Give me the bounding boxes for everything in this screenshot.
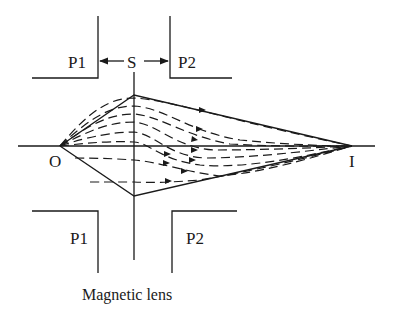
label-image: I	[349, 152, 355, 171]
label-pole-top-right: P2	[178, 53, 196, 72]
envelope-ray-bottom	[60, 146, 352, 196]
pole-piece-bottom-left	[32, 211, 98, 273]
label-pole-bottom-right: P2	[186, 229, 204, 248]
label-pole-bottom-left: P1	[70, 229, 88, 248]
diagram-svg: P1 S P2 O I P1 P2 Magnetic lens	[0, 0, 396, 311]
magnetic-lens-diagram: P1 S P2 O I P1 P2 Magnetic lens	[0, 0, 396, 311]
label-slit: S	[127, 53, 136, 72]
electron-paths	[60, 98, 352, 182]
label-object: O	[49, 152, 61, 171]
pole-piece-top-left	[32, 16, 98, 78]
label-pole-top-left: P1	[68, 53, 86, 72]
pole-piece-bottom-right	[172, 211, 237, 273]
caption-magnetic-lens: Magnetic lens	[82, 286, 172, 304]
